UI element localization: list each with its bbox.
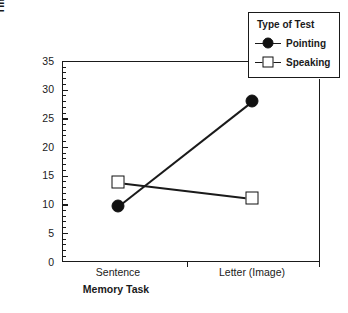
x-tick-label-letter: Letter (Image) [219,266,285,278]
y-tick-label: 5 [48,228,54,238]
y-tick-major [63,61,68,62]
y-tick-label: 35 [42,56,54,66]
y-tick-minor [63,164,66,165]
y-tick-minor [63,244,66,245]
y-tick-minor [63,107,66,108]
y-tick-minor [63,256,66,257]
y-tick-major [63,176,68,177]
y-tick-major [63,147,68,148]
y-tick-label: 15 [42,170,54,180]
plot-frame-top [62,61,249,62]
y-tick-major [63,90,68,91]
y-tick-minor [63,181,66,182]
y-tick-label: 25 [42,113,54,123]
legend-entry-pointing: Pointing [255,36,339,50]
legend: Type of Test Pointing Speaking [248,12,340,78]
plot-frame-right [319,79,320,262]
y-tick-minor [63,130,66,131]
y-tick-minor [63,239,66,240]
y-tick-label: 30 [42,84,54,94]
y-tick-label: 10 [42,199,54,209]
y-tick-minor [63,84,66,85]
y-tick-minor [63,187,66,188]
legend-entry-label: Pointing [286,38,326,49]
x-axis-line [62,261,320,262]
y-tick-minor [63,158,66,159]
y-tick-minor [63,221,66,222]
x-axis-title-text: Memory Task [83,283,149,295]
y-tick-major [63,118,68,119]
y-tick-minor [63,199,66,200]
y-tick-minor [63,227,66,228]
legend-title: Type of Test [257,19,339,30]
y-axis-line [62,61,63,262]
y-tick-label: 20 [42,142,54,152]
filled-circle-icon [255,37,281,50]
x-tick-label-sentence: Sentence [96,266,140,278]
y-tick-minor [63,124,66,125]
y-tick-minor [63,153,66,154]
y-tick-minor [63,135,66,136]
x-axis-title: Memory Task [0,283,348,295]
y-tick-minor [63,193,66,194]
y-tick-major [63,261,68,262]
x-axis-tick-labels: Sentence Letter (Image) [0,266,348,282]
y-tick-major [63,204,68,205]
chart-figure: Time to Complete Task (sec) 35 30 25 20 … [0,0,348,313]
open-square-icon [255,56,281,69]
legend-entry-label: Speaking [286,57,330,68]
y-tick-minor [63,113,66,114]
y-tick-minor [63,170,66,171]
y-tick-minor [63,67,66,68]
y-tick-minor [63,141,66,142]
legend-entry-speaking: Speaking [255,55,339,69]
y-tick-minor [63,78,66,79]
y-tick-minor [63,250,66,251]
y-tick-minor [63,95,66,96]
y-tick-major [63,233,68,234]
y-tick-minor [63,72,66,73]
plot-area [62,61,320,262]
y-tick-minor [63,210,66,211]
y-tick-minor [63,216,66,217]
y-tick-minor [63,101,66,102]
